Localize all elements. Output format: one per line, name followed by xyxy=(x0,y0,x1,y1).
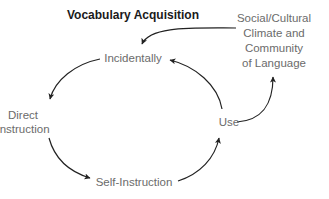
diagram-title: Vocabulary Acquisition xyxy=(67,8,199,22)
diagram-canvas: Vocabulary Acquisition Incidentally Soci… xyxy=(0,0,329,199)
arrow-social-to-incidentally xyxy=(142,28,236,44)
node-social-cultural-line-1: Social/Cultural xyxy=(237,11,311,26)
node-use: Use xyxy=(219,115,239,129)
node-incidentally: Incidentally xyxy=(104,51,162,65)
arrow-incidentally-to-direct xyxy=(50,59,100,99)
node-self-instruction: Self-Instruction xyxy=(96,175,173,189)
arrow-use-to-social xyxy=(237,77,273,122)
arrow-use-to-incidentally xyxy=(170,60,222,109)
arrow-direct-to-self xyxy=(49,138,90,178)
node-direct-instruction-line-1: Direct xyxy=(0,108,50,122)
arrow-self-to-use xyxy=(178,138,219,181)
node-direct-instruction-line-2: Instruction xyxy=(0,122,50,136)
node-social-cultural-line-2: Climate and xyxy=(237,26,311,41)
node-direct-instruction: Direct Instruction xyxy=(0,108,50,136)
node-social-cultural-line-3: Community xyxy=(237,41,311,56)
node-social-cultural: Social/Cultural Climate and Community of… xyxy=(237,11,311,71)
node-social-cultural-line-4: of Language xyxy=(237,56,311,71)
